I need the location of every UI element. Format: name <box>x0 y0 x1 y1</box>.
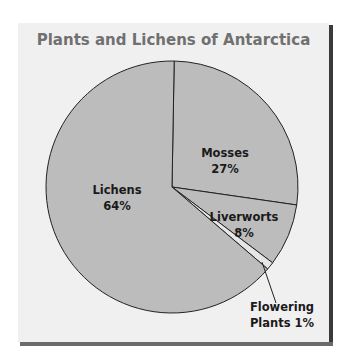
pie-slice-mosses <box>172 61 298 205</box>
lichens-label: Lichens <box>92 183 141 197</box>
flowering-value: Plants 1% <box>250 316 315 330</box>
liverworts-value: 8% <box>234 226 254 240</box>
pie-chart: Mosses 27% Liverworts 8% Lichens 64% Flo… <box>0 0 350 363</box>
liverworts-label: Liverworts <box>210 210 279 224</box>
pie-slices <box>46 61 298 313</box>
mosses-label: Mosses <box>201 146 249 160</box>
mosses-value: 27% <box>211 162 239 176</box>
flowering-label: Flowering <box>250 300 314 314</box>
lichens-value: 64% <box>103 199 131 213</box>
